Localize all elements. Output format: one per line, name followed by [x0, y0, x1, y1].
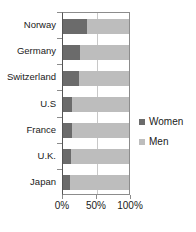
bar-segment-men: [80, 45, 130, 60]
category-tick: [57, 90, 62, 91]
legend-label: Men: [149, 136, 168, 147]
bar-segment-men: [72, 97, 129, 112]
legend-swatch-icon: [139, 119, 145, 125]
bar-row: [63, 123, 129, 138]
category-label: Norway: [0, 20, 56, 30]
bar-segment-men: [71, 149, 129, 164]
bar-segment-men: [70, 175, 129, 190]
value-axis: 0%50%100%: [0, 200, 196, 216]
bar-segment-men: [72, 123, 129, 138]
stacked-bar-chart: NorwayGermanySwitzerlandU.SFranceU.K.Jap…: [0, 0, 196, 232]
bar-row: [63, 97, 129, 112]
bar-row: [63, 175, 129, 190]
category-tick: [57, 143, 62, 144]
chart-legend: WomenMen: [139, 114, 195, 154]
legend-item[interactable]: Men: [139, 134, 195, 149]
value-tick-label: 100%: [117, 200, 143, 212]
bar-row: [63, 149, 129, 164]
category-label: Japan: [0, 177, 56, 187]
category-label: Germany: [0, 46, 56, 56]
bar-track: [63, 97, 129, 112]
bar-row: [63, 71, 129, 86]
bar-track: [63, 19, 129, 34]
bar-segment-women: [63, 97, 72, 112]
legend-item[interactable]: Women: [139, 114, 195, 129]
bar-track: [63, 149, 129, 164]
value-tick-label: 50%: [86, 200, 106, 212]
category-axis: NorwayGermanySwitzerlandU.SFranceU.K.Jap…: [0, 12, 59, 195]
category-tick: [57, 38, 62, 39]
bar-row: [63, 45, 129, 60]
bar-segment-women: [63, 19, 87, 34]
category-label: France: [0, 125, 56, 135]
bar-segment-women: [63, 45, 80, 60]
bar-segment-men: [79, 71, 129, 86]
legend-label: Women: [149, 116, 183, 127]
bar-segment-women: [63, 71, 79, 86]
bar-track: [63, 71, 129, 86]
value-tick: [96, 195, 97, 199]
bar-segment-men: [87, 19, 129, 34]
category-tick: [57, 169, 62, 170]
plot-area: [62, 12, 130, 195]
bar-track: [63, 45, 129, 60]
category-tick: [57, 12, 62, 13]
value-tick: [130, 195, 131, 199]
category-tick: [57, 117, 62, 118]
category-label: U.S: [0, 99, 56, 109]
value-tick-label: 0%: [55, 200, 69, 212]
legend-swatch-icon: [139, 139, 145, 145]
value-tick: [62, 195, 63, 199]
bar-segment-women: [63, 175, 70, 190]
category-label: U.K.: [0, 151, 56, 161]
category-tick: [57, 64, 62, 65]
bar-track: [63, 175, 129, 190]
bar-segment-women: [63, 149, 71, 164]
bar-segment-women: [63, 123, 72, 138]
bar-row: [63, 19, 129, 34]
bar-track: [63, 123, 129, 138]
category-label: Switzerland: [0, 72, 56, 82]
